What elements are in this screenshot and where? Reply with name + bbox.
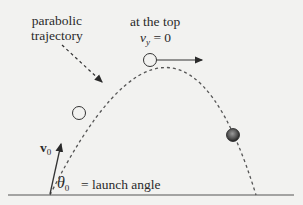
theta-label: θ0 [57,175,69,196]
trajectory-label-line1: parabolic [31,13,83,28]
vy-equation: vy = 0 [140,30,171,50]
trajectory-pointer-arrow [62,45,102,82]
v0-symbol: v [40,140,47,155]
vy-value: = 0 [150,30,171,45]
apex-ball [144,54,157,67]
top-label: at the top [130,14,180,29]
ascending-ball [73,107,86,120]
trajectory-label-line2: trajectory [31,28,83,43]
descending-ball [227,129,240,142]
v0-label: v0 [40,140,51,160]
trajectory-path [50,68,256,196]
theta-symbol: θ [57,174,65,191]
launch-angle-label: = launch angle [81,177,161,192]
theta-subscript: 0 [65,183,70,193]
v0-subscript: 0 [47,147,52,157]
trajectory-label: parabolic trajectory [31,13,83,43]
